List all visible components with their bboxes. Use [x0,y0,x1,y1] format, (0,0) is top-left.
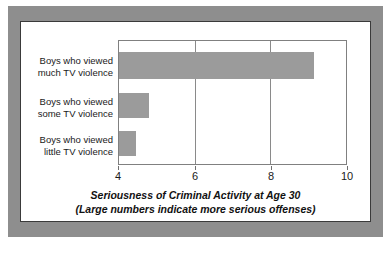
category-label-2-line2: little TV violence [21,146,113,158]
category-label-0: Boys who viewed much TV violence [21,55,113,79]
category-label-1: Boys who viewed some TV violence [21,96,113,120]
x-tick-label-1: 6 [183,170,207,182]
category-label-1-line2: some TV violence [21,108,113,120]
x-axis-title-line2: (Large numbers indicate more serious off… [20,202,371,216]
plot-area [118,40,347,165]
category-label-0-line2: much TV violence [21,67,113,79]
category-label-1-line1: Boys who viewed [21,96,113,108]
category-label-2: Boys who viewed little TV violence [21,134,113,158]
bar-much-tv-violence [119,52,314,79]
category-label-0-line1: Boys who viewed [21,55,113,67]
chart-figure: Boys who viewed much TV violence Boys wh… [0,0,391,256]
bar-little-tv-violence [119,131,136,156]
x-tick-label-0: 4 [106,170,130,182]
x-axis-title-line1: Seriousness of Criminal Activity at Age … [20,188,371,202]
category-label-2-line1: Boys who viewed [21,134,113,146]
x-axis-title: Seriousness of Criminal Activity at Age … [20,188,371,216]
x-tick-label-3: 10 [335,170,359,182]
x-tick-label-2: 8 [259,170,283,182]
bar-some-tv-violence [119,93,149,118]
